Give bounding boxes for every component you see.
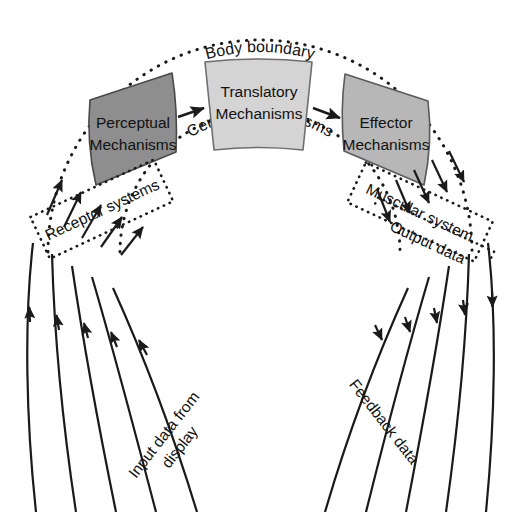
block-effector-line2: Mechanisms — [343, 136, 430, 153]
information-processing-diagram: Body boundary Central mechanisms Percept… — [0, 0, 520, 512]
block-perceptual-line2: Mechanisms — [90, 136, 177, 153]
block-translatory-line1: Translatory — [221, 83, 298, 100]
input-arrowhead-1 — [29, 307, 30, 322]
diagram-canvas: Body boundary Central mechanisms Percept… — [0, 0, 520, 512]
block-effector-line1: Effector — [359, 114, 412, 131]
feedback-arrowhead-1 — [492, 292, 493, 307]
block-perceptual-line1: Perceptual — [96, 114, 170, 131]
block-translatory[interactable]: Translatory Mechanisms — [205, 59, 312, 150]
block-translatory-line2: Mechanisms — [216, 105, 303, 122]
